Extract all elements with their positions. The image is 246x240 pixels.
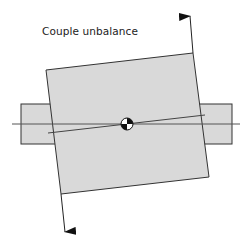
force-arrow-down — [61, 194, 65, 232]
center-of-mass-icon — [121, 118, 133, 130]
force-arrow-up — [190, 16, 193, 53]
couple-unbalance-diagram — [0, 0, 246, 240]
